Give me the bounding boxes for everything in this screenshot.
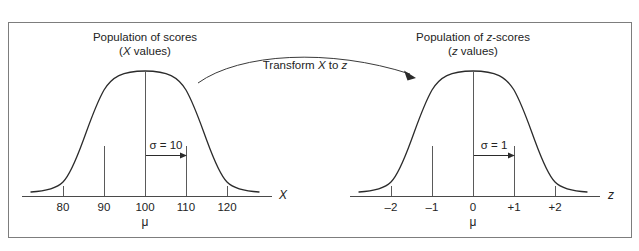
- right-axis-label: z: [607, 188, 614, 202]
- right-mean-symbol: μ: [470, 215, 477, 229]
- figure-container: Population of scores (X values) σ = 10 8…: [0, 0, 639, 251]
- right-panel-title-line2: (z values): [448, 45, 498, 57]
- transform-arrow-group: Transform X to z: [198, 57, 416, 83]
- left-distribution-panel: Population of scores (X values) σ = 10 8…: [22, 31, 288, 229]
- left-axis-label: X: [278, 188, 288, 202]
- right-sigma-arrow-head: [508, 153, 515, 159]
- left-tick-label-4: 120: [217, 201, 236, 213]
- left-mean-symbol: μ: [142, 215, 149, 229]
- transform-arrow-head: [404, 71, 416, 81]
- left-tick-label-3: 110: [177, 201, 195, 213]
- left-tick-label-0: 80: [57, 201, 70, 213]
- left-tick-label-2: 100: [135, 201, 154, 213]
- diagram-canvas: Population of scores (X values) σ = 10 8…: [0, 0, 639, 251]
- right-tick-label-4: +2: [548, 201, 561, 213]
- left-panel-title-line2: (X values): [119, 45, 171, 57]
- left-sigma-label: σ = 10: [149, 139, 182, 151]
- right-distribution-panel: Population of z-scores (z values) σ = 1 …: [350, 31, 614, 229]
- right-sigma-label: σ = 1: [481, 139, 508, 151]
- left-tick-label-1: 90: [98, 201, 111, 213]
- left-panel-title-line1: Population of scores: [93, 31, 197, 43]
- right-tick-label-3: +1: [507, 201, 520, 213]
- left-sigma-arrow-head: [180, 153, 187, 159]
- transform-label: Transform X to z: [263, 59, 348, 71]
- right-tick-label-0: –2: [385, 201, 398, 213]
- right-tick-label-1: –1: [426, 201, 439, 213]
- right-tick-label-2: 0: [470, 201, 476, 213]
- right-panel-title-line1: Population of z-scores: [416, 31, 530, 43]
